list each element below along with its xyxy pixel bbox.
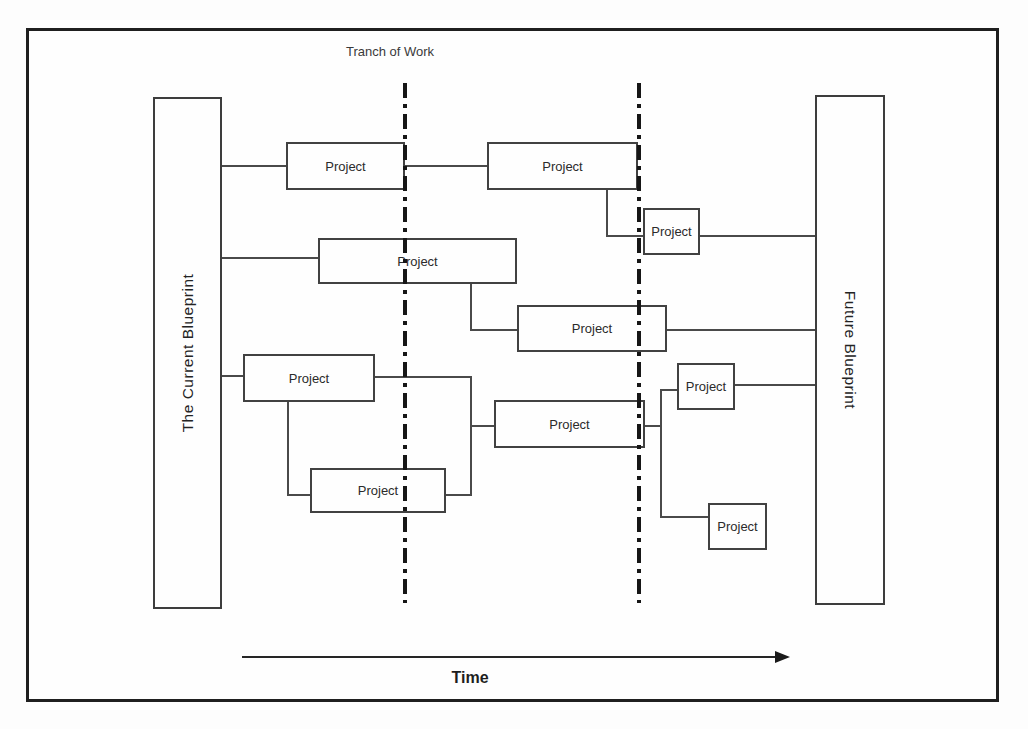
current-blueprint-box: The Current Blueprint (153, 97, 222, 609)
connector-p4-drop-vertical (470, 284, 472, 331)
connector-p9-to-future-blueprint (735, 384, 815, 386)
connector-branch-to-p10 (660, 516, 708, 518)
time-arrow-line (242, 656, 776, 658)
connector-junction-to-p8 (472, 425, 494, 427)
project-box-3-label: Project (651, 224, 691, 239)
connector-p2-drop-vertical (606, 190, 608, 237)
current-blueprint-label: The Current Blueprint (177, 113, 199, 593)
project-box-9: Project (677, 363, 735, 410)
connector-p6-to-p7 (287, 494, 310, 496)
connector-p1-to-p2 (405, 165, 487, 167)
project-box-7-label: Project (358, 483, 398, 498)
connector-p3-to-future-blueprint (700, 235, 815, 237)
project-box-7: Project (310, 468, 446, 513)
project-box-1: Project (286, 142, 405, 190)
connector-junction-vertical (470, 376, 472, 496)
project-box-10: Project (708, 503, 767, 550)
project-box-2-label: Project (542, 159, 582, 174)
project-box-9-label: Project (686, 379, 726, 394)
connector-p6-drop-vertical (287, 402, 289, 494)
project-box-5: Project (517, 305, 667, 352)
tranche-of-work-label: Tranch of Work (300, 44, 480, 59)
future-blueprint-box: Future Blueprint (815, 95, 885, 605)
time-axis-label: Time (400, 669, 540, 687)
project-box-2: Project (487, 142, 638, 190)
connector-branch-to-p9 (660, 389, 677, 391)
project-box-8: Project (494, 400, 645, 448)
tranche-divider-line-1 (403, 83, 407, 603)
connector-p8-branch-vertical (660, 389, 662, 518)
project-box-10-label: Project (717, 519, 757, 534)
connector-blueprint-to-p1 (222, 165, 286, 167)
connector-p5-to-future-blueprint (667, 329, 815, 331)
connector-p7-to-junction (446, 494, 472, 496)
scanned-diagram-page: Tranch of Work The Current Blueprint Fut… (0, 0, 1028, 729)
project-box-3: Project (643, 208, 700, 255)
connector-p6-to-junction (375, 376, 472, 378)
project-box-8-label: Project (549, 417, 589, 432)
time-arrow-head (775, 651, 790, 663)
connector-blueprint-to-p6 (222, 375, 243, 377)
connector-p4-to-p5 (470, 329, 517, 331)
connector-blueprint-to-p4 (222, 257, 318, 259)
project-box-6-label: Project (289, 371, 329, 386)
project-box-6: Project (243, 354, 375, 402)
project-box-5-label: Project (572, 321, 612, 336)
future-blueprint-label: Future Blueprint (839, 110, 861, 590)
project-box-4: Project (318, 238, 517, 284)
project-box-1-label: Project (325, 159, 365, 174)
tranche-divider-line-2 (637, 83, 641, 603)
